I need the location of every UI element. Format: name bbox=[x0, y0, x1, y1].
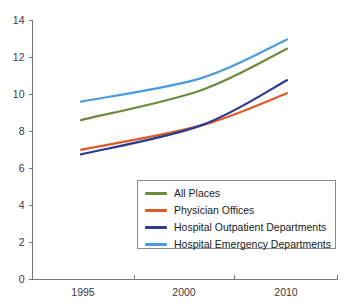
y-axis-tick-label: 6 bbox=[19, 162, 25, 174]
legend-item: Hospital Emergency Departments bbox=[145, 236, 335, 252]
chart-legend: All Places Physician Offices Hospital Ou… bbox=[137, 180, 336, 249]
x-axis-tick-label: 1995 bbox=[71, 286, 95, 298]
y-axis-ticks bbox=[29, 20, 33, 280]
legend-label-hospital-emergency-departments: Hospital Emergency Departments bbox=[174, 238, 331, 250]
y-axis-tick-label: 4 bbox=[19, 199, 25, 211]
legend-swatch-hospital-emergency-departments bbox=[145, 243, 167, 246]
line-chart: 02468101214 199520002010 All Places Phys… bbox=[0, 0, 348, 308]
legend-item: All Places bbox=[145, 185, 335, 201]
series-line-hospital-emergency-departments bbox=[81, 39, 287, 101]
data-series-group bbox=[81, 39, 287, 154]
series-line-physician-offices bbox=[81, 93, 287, 150]
y-axis-tick-labels: 02468101214 bbox=[13, 14, 25, 286]
legend-item: Physician Offices bbox=[145, 202, 335, 218]
legend-label-all-places: All Places bbox=[174, 187, 220, 199]
legend-swatch-hospital-outpatient-departments bbox=[145, 226, 167, 229]
legend-item: Hospital Outpatient Departments bbox=[145, 219, 335, 235]
legend-swatch-all-places bbox=[145, 192, 167, 195]
x-axis-ticks bbox=[33, 275, 338, 280]
legend-swatch-physician-offices bbox=[145, 209, 167, 212]
x-axis-tick-label: 2000 bbox=[172, 286, 196, 298]
legend-label-physician-offices: Physician Offices bbox=[174, 204, 254, 216]
legend-label-hospital-outpatient-departments: Hospital Outpatient Departments bbox=[174, 221, 326, 233]
y-axis-tick-label: 14 bbox=[13, 14, 25, 26]
y-axis-tick-label: 10 bbox=[13, 88, 25, 100]
y-axis-tick-label: 0 bbox=[19, 273, 25, 285]
y-axis-tick-label: 8 bbox=[19, 125, 25, 137]
x-axis-tick-label: 2010 bbox=[274, 286, 298, 298]
chart-plot-area: 02468101214 199520002010 bbox=[0, 0, 348, 308]
y-axis-tick-label: 2 bbox=[19, 236, 25, 248]
x-axis-tick-labels: 199520002010 bbox=[71, 286, 298, 298]
y-axis-tick-label: 12 bbox=[13, 51, 25, 63]
series-line-all-places bbox=[81, 49, 287, 120]
